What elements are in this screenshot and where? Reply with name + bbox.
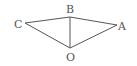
segment-oa xyxy=(70,25,117,48)
segment-ba xyxy=(70,17,117,25)
geometry-diagram: C B A O xyxy=(0,0,137,66)
segment-cb xyxy=(25,17,70,23)
segment-co xyxy=(25,23,70,48)
point-label-c: C xyxy=(14,18,22,31)
point-label-a: A xyxy=(117,20,127,33)
point-label-o: O xyxy=(66,51,75,64)
point-label-b: B xyxy=(66,3,74,16)
